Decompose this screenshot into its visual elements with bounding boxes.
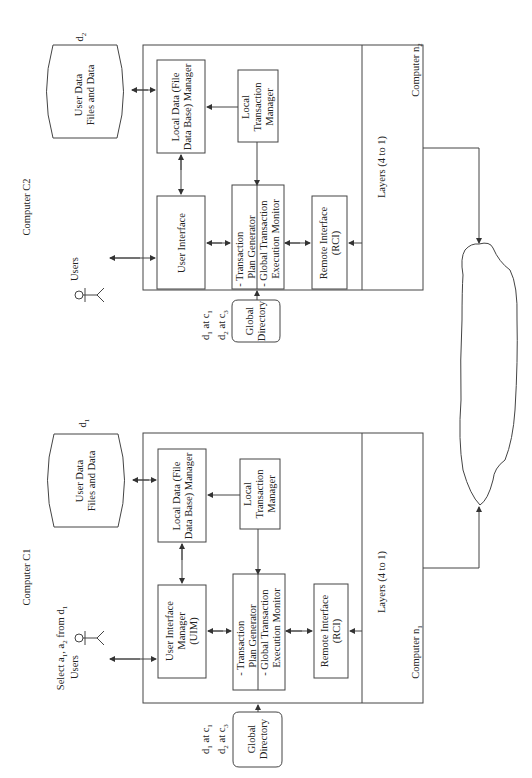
c2-global-directory: GlobalDirectory [243,300,269,342]
c2-user-interface: User Interface [169,197,195,290]
c2-local-transaction-manager: LocalTransactionManager [239,71,277,143]
c1-remote-interface: Remote Interface(RCI) [318,584,344,678]
c1-user-head [75,634,83,642]
c1-transaction-plan-monitor: - TransactionPlan Generator- Global Tran… [234,574,284,690]
c1-data-store-label: User DataFiles and Data [73,435,99,528]
c2-transaction-plan-monitor: - TransactionPlan Generator- Global Tran… [233,191,283,295]
network-cloud [460,243,517,505]
c1-local-data-manager: Local Data (FileData Base) Manager [170,450,196,543]
c2-remote-interface: Remote Interface(RCI) [317,197,343,290]
c2-local-data-manager: Local Data (FileData Base) Manager [169,61,195,154]
c2-layers: Layers (4 to 1) [375,127,389,207]
c1-user-interface-manager: User InterfaceManager(UIM) [163,583,201,679]
c1-local-transaction-manager: LocalTransactionManager [241,459,279,529]
c1-global-directory: GlobalDirectory [245,717,271,761]
c1-title: Computer C1 [20,537,34,617]
c1-data-tag: d1 [80,416,89,430]
c1-layers: Layers (4 to 1) [375,542,389,622]
c2-data-store-label: User DataFiles and Data [72,49,98,142]
c2-title: Computer C2 [20,167,34,247]
c2-user-head [75,291,83,299]
c1-directory-entries: d1 at c1 d2 at c3 [202,719,230,759]
c1-node-label: Computer n1 [411,622,425,682]
c2-node-label: Computer n2 [411,40,425,100]
c2-users-label: Users [68,249,82,289]
c2-directory-entries: d1 at c1 d2 at c3 [202,305,230,345]
c2-data-tag: d2 [77,30,86,44]
c1-query-label: Select a1, a2 from d1 [55,600,71,696]
